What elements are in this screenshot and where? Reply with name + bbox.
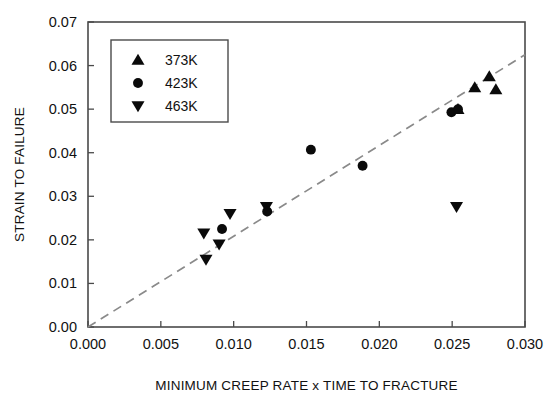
data-point-triangle-up: [483, 70, 496, 81]
data-point-triangle-down: [197, 228, 210, 239]
x-tick-label: 0.005: [143, 336, 179, 352]
data-point-triangle-up: [489, 83, 502, 94]
y-axis-title: STRAIN TO FAILURE: [12, 107, 27, 242]
series-423K: [217, 104, 463, 234]
x-tick-label: 0.030: [507, 336, 543, 352]
y-tick-label: 0.00: [49, 319, 77, 335]
x-tick-label: 0.010: [216, 336, 252, 352]
x-tick-label: 0.020: [361, 336, 397, 352]
data-point-triangle-down: [199, 255, 212, 266]
x-axis-title: MINIMUM CREEP RATE x TIME TO FRACTURE: [155, 378, 457, 393]
data-point-circle: [453, 104, 463, 114]
y-tick-label: 0.06: [49, 58, 77, 74]
x-tick-label: 0.000: [70, 336, 106, 352]
y-tick-label: 0.03: [49, 188, 77, 204]
y-tick-label: 0.07: [49, 14, 77, 30]
x-tick-label: 0.025: [434, 336, 470, 352]
legend: 373K423K463K: [111, 40, 228, 122]
data-point-circle: [217, 224, 227, 234]
series-463K: [197, 202, 463, 266]
data-point-triangle-down: [450, 202, 463, 213]
data-point-circle: [358, 161, 368, 171]
y-tick-label: 0.05: [49, 101, 77, 117]
legend-label-373K: 373K: [165, 52, 198, 68]
legend-label-463K: 463K: [165, 98, 198, 114]
data-point-circle: [306, 145, 316, 155]
legend-label-423K: 423K: [165, 75, 198, 91]
scatter-plot-svg: 0.0000.0050.0100.0150.0200.0250.030 0.00…: [0, 0, 552, 405]
chart-figure: 0.0000.0050.0100.0150.0200.0250.030 0.00…: [0, 0, 552, 405]
data-point-circle: [133, 78, 143, 88]
x-axis-ticks: 0.0000.0050.0100.0150.0200.0250.030: [70, 321, 543, 352]
x-tick-label: 0.015: [288, 336, 324, 352]
data-point-triangle-down: [213, 239, 226, 250]
data-series-group: [197, 70, 502, 265]
data-point-triangle-down: [224, 209, 237, 220]
y-tick-label: 0.01: [49, 275, 77, 291]
y-tick-label: 0.02: [49, 232, 77, 248]
y-tick-label: 0.04: [49, 145, 77, 161]
data-point-triangle-up: [468, 81, 481, 92]
